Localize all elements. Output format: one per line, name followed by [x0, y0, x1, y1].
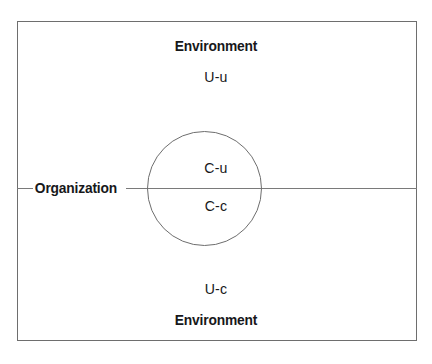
label-c-c: C-c	[13, 198, 419, 213]
core-domain-circle	[147, 131, 262, 246]
label-organization: Organization	[33, 180, 119, 195]
label-u-u: U-u	[13, 69, 419, 84]
label-environment-bottom: Environment	[17, 312, 414, 327]
label-c-u: C-u	[13, 160, 419, 175]
label-u-c: U-c	[13, 281, 419, 296]
organization-divider-line-left	[17, 188, 33, 189]
label-environment-top: Environment	[17, 38, 414, 53]
